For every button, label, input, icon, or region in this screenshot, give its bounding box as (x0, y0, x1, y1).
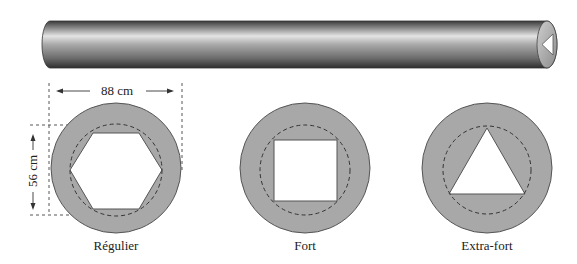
cross-section-regulier (51, 103, 181, 233)
cross-section-extra-fort (422, 103, 552, 233)
cross-section-fort (240, 103, 370, 233)
section-label-fort: Fort (294, 238, 316, 253)
square-opening (274, 140, 337, 201)
height-dimension-label: 56 cm (25, 155, 40, 187)
pipe (42, 21, 557, 68)
width-dimension-label: 88 cm (101, 83, 133, 98)
section-label-regulier: Régulier (94, 238, 139, 253)
section-label-extra-fort: Extra-fort (461, 238, 513, 253)
pipe-diagram: 88 cm 56 cm Régulier Fort Extra-fort (0, 0, 577, 264)
